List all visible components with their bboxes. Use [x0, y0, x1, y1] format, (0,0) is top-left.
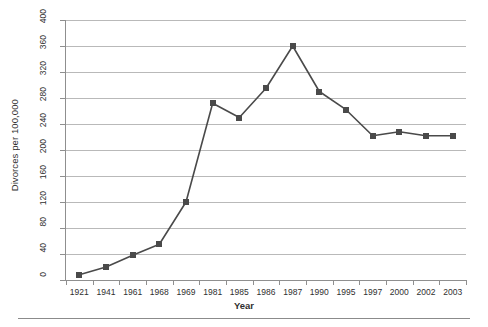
x-tick-label-1985: 1985 — [230, 287, 249, 297]
y-axis-title-text: Divorces per 100,000 — [9, 99, 20, 191]
y-tick-label-40: 40 — [30, 243, 56, 254]
x-tick-2003 — [439, 280, 440, 285]
x-tick-1990 — [306, 280, 307, 285]
x-tick-label-2000: 2000 — [390, 287, 409, 297]
x-tick-1968 — [146, 280, 147, 285]
y-tick-label-160: 160 — [30, 165, 56, 181]
x-tick-label-1968: 1968 — [150, 287, 169, 297]
x-tick-1997 — [359, 280, 360, 285]
x-tick-1986 — [253, 280, 254, 285]
x-tick-1985 — [226, 280, 227, 285]
data-point-1961 — [130, 252, 136, 258]
y-tick-label-text: 120 — [38, 191, 48, 205]
y-tick-label-320: 320 — [30, 61, 56, 77]
x-tick-label-1990: 1990 — [310, 287, 329, 297]
y-tick-label-text: 40 — [38, 243, 48, 252]
data-point-2002 — [423, 133, 429, 139]
x-tick-1941 — [93, 280, 94, 285]
y-tick-label-text: 200 — [38, 139, 48, 153]
x-tick-1969 — [173, 280, 174, 285]
x-tick-1961 — [119, 280, 120, 285]
y-tick-label-240: 240 — [30, 113, 56, 129]
data-point-1968 — [156, 241, 162, 247]
x-tick-1921 — [66, 280, 67, 285]
x-tick-label-2003: 2003 — [443, 287, 462, 297]
y-tick-label-120: 120 — [30, 191, 56, 207]
x-tick-end — [466, 280, 467, 285]
data-series-divorces — [66, 20, 466, 280]
x-tick-1981 — [199, 280, 200, 285]
x-tick-label-2002: 2002 — [417, 287, 436, 297]
data-point-1995 — [343, 107, 349, 113]
x-tick-2000 — [386, 280, 387, 285]
data-point-1987 — [290, 43, 296, 49]
footer-rule — [18, 318, 470, 319]
x-tick-label-1987: 1987 — [283, 287, 302, 297]
y-tick-label-400: 400 — [30, 9, 56, 25]
x-tick-label-1969: 1969 — [177, 287, 196, 297]
data-point-1921 — [76, 272, 82, 278]
x-tick-label-1995: 1995 — [337, 287, 356, 297]
data-point-1990 — [316, 89, 322, 95]
x-axis-title: Year — [0, 300, 488, 311]
y-tick-label-360: 360 — [30, 35, 56, 51]
data-point-2003 — [450, 133, 456, 139]
data-point-1941 — [103, 264, 109, 270]
series-line — [66, 20, 466, 280]
data-point-1969 — [183, 199, 189, 205]
data-point-1981 — [210, 100, 216, 106]
x-tick-label-1986: 1986 — [257, 287, 276, 297]
y-tick-label-text: 280 — [38, 87, 48, 101]
data-point-1985 — [236, 115, 242, 121]
y-tick-label-text: 320 — [38, 61, 48, 75]
x-tick-1987 — [279, 280, 280, 285]
data-point-1986 — [263, 85, 269, 91]
x-tick-label-1981: 1981 — [203, 287, 222, 297]
x-tick-label-1961: 1961 — [123, 287, 142, 297]
x-tick-label-1941: 1941 — [97, 287, 116, 297]
x-axis-line — [66, 280, 466, 281]
x-tick-label-1997: 1997 — [363, 287, 382, 297]
y-axis-title: Divorces per 100,000 — [6, 0, 22, 290]
y-tick-label-text: 360 — [38, 35, 48, 49]
y-tick-label-200: 200 — [30, 139, 56, 155]
y-tick-label-80: 80 — [30, 217, 56, 228]
data-point-2000 — [396, 129, 402, 135]
chart-figure: Divorces per 100,000 0408012016020024028… — [0, 0, 488, 327]
y-tick-label-text: 240 — [38, 113, 48, 127]
y-tick-label-text: 0 — [38, 272, 48, 277]
x-tick-2002 — [413, 280, 414, 285]
x-tick-1995 — [333, 280, 334, 285]
data-point-1997 — [370, 133, 376, 139]
y-tick-label-280: 280 — [30, 87, 56, 103]
y-tick-label-text: 400 — [38, 9, 48, 23]
y-tick-label-text: 80 — [38, 217, 48, 226]
y-tick-label-0: 0 — [30, 269, 56, 279]
y-tick-label-text: 160 — [38, 165, 48, 179]
x-tick-label-1921: 1921 — [70, 287, 89, 297]
